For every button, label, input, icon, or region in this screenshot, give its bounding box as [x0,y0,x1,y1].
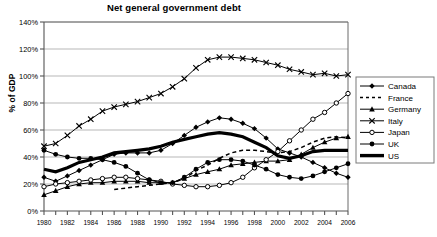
marker-open-circle [217,183,221,187]
marker-circle [194,167,199,172]
marker-open-circle [241,175,245,179]
marker-circle [346,161,351,166]
x-axis-tick-label: 2004 [317,219,332,226]
y-axis-tick-label: 100% [19,72,38,81]
chart-plot: 0%20%40%60%80%100%120%140%19801982198419… [0,0,437,237]
marker-open-circle [205,185,209,189]
marker-open-circle [182,183,186,187]
legend-label: UK [388,140,400,149]
marker-diamond [310,160,315,165]
legend-label: US [388,152,399,161]
chart-container: Net general government debt % of GDP 0%2… [0,0,437,237]
marker-circle [240,159,245,164]
marker-diamond [240,121,245,126]
marker-circle [217,157,222,162]
marker-x [147,95,152,100]
marker-circle [147,178,152,183]
marker-open-circle [194,185,198,189]
y-axis-tick-label: 120% [19,45,38,54]
x-axis-tick-label: 2000 [271,219,286,226]
marker-circle [299,176,304,181]
marker-open-circle [65,180,69,184]
marker-circle [159,180,164,185]
marker-circle [112,160,117,165]
marker-diamond [65,173,70,178]
marker-circle [229,157,234,162]
x-axis-tick-label: 1994 [200,219,215,226]
marker-circle [53,152,58,157]
x-axis-tick-label: 1988 [130,219,145,226]
marker-diamond [334,171,339,176]
y-axis-tick-label: 40% [23,153,38,162]
marker-circle [42,148,47,153]
marker-diamond [41,175,46,180]
legend-label: Japan [388,128,410,137]
marker-diamond [228,117,233,122]
marker-diamond [147,150,152,155]
marker-open-circle [42,185,46,189]
marker-open-circle [229,180,233,184]
marker-x [170,84,175,89]
legend-label: Canada [388,82,417,91]
legend-label: Germany [388,105,421,114]
x-axis-tick-label: 1980 [37,219,52,226]
marker-open-circle [77,179,81,183]
marker-circle [123,164,128,169]
marker-circle [182,175,187,180]
marker-open-circle [53,182,57,186]
x-axis-tick-label: 1982 [60,219,75,226]
marker-open-circle [370,130,374,134]
marker-x [88,117,93,122]
marker-open-circle [135,176,139,180]
marker-circle [311,174,316,179]
series-italy [41,54,350,148]
marker-diamond [88,162,93,167]
marker-x [65,133,70,138]
marker-circle [322,169,327,174]
y-axis-tick-label: 140% [19,18,38,27]
y-axis-tick-label: 60% [23,126,38,135]
legend-label: Italy [388,117,403,126]
x-axis-tick-label: 2002 [294,219,309,226]
marker-circle [170,180,175,185]
marker-open-circle [334,101,338,105]
marker-circle [205,160,210,165]
marker-circle [252,163,257,168]
marker-open-circle [346,91,350,95]
marker-circle [275,172,280,177]
marker-diamond [76,168,81,173]
marker-diamond [217,115,222,120]
marker-circle [65,155,70,160]
x-axis-tick-label: 1998 [247,219,262,226]
marker-circle [370,142,375,147]
marker-diamond [345,175,350,180]
marker-x [158,91,163,96]
x-axis-tick-label: 1990 [154,219,169,226]
y-axis-tick-label: 0% [27,207,38,216]
y-axis-tick-label: 20% [23,180,38,189]
marker-circle [334,165,339,170]
marker-x [182,76,187,81]
marker-open-circle [89,178,93,182]
marker-open-circle [100,176,104,180]
marker-open-circle [322,110,326,114]
marker-diamond [205,119,210,124]
marker-open-circle [311,117,315,121]
x-axis-tick-label: 1996 [224,219,239,226]
x-axis-tick-label: 2006 [341,219,356,226]
marker-open-circle [124,175,128,179]
marker-circle [77,156,82,161]
marker-open-circle [112,175,116,179]
marker-open-circle [287,139,291,143]
marker-circle [287,175,292,180]
marker-x [193,65,198,70]
x-axis-tick-label: 1992 [177,219,192,226]
marker-triangle [345,134,351,139]
legend-label: France [388,94,413,103]
x-axis-tick-label: 1984 [83,219,98,226]
marker-x [76,123,81,128]
x-axis-tick-label: 1986 [107,219,122,226]
marker-circle [264,167,269,172]
marker-circle [135,171,140,176]
marker-open-circle [299,128,303,132]
